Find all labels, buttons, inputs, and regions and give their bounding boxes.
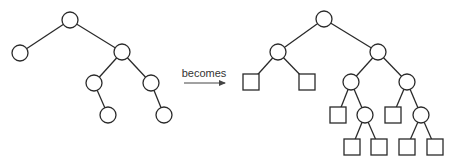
left-tree-edge	[20, 20, 70, 53]
left-tree-nodes	[12, 12, 172, 123]
right-tree-internal-node	[370, 44, 386, 60]
right-tree-external-node	[371, 139, 387, 155]
right-tree-external-node	[243, 74, 259, 90]
right-tree-edge	[324, 19, 378, 52]
left-tree-edges	[20, 20, 164, 115]
right-tree-external-node	[344, 139, 360, 155]
left-tree-internal-node	[62, 12, 78, 28]
right-tree-internal-node	[316, 11, 332, 27]
left-tree-internal-node	[156, 107, 172, 123]
right-tree-internal-node	[357, 107, 373, 123]
right-tree-internal-node	[413, 107, 429, 123]
left-tree-edge	[70, 20, 122, 52]
right-tree-internal-node	[343, 74, 359, 90]
becomes-label: becomes	[182, 67, 227, 79]
left-tree-internal-node	[143, 75, 159, 91]
right-tree-external-node	[427, 139, 443, 155]
left-tree-internal-node	[12, 45, 28, 61]
left-tree-internal-node	[114, 44, 130, 60]
right-tree-external-node	[299, 74, 315, 90]
right-tree-internal-node	[270, 44, 286, 60]
right-tree-internal-node	[399, 74, 415, 90]
right-tree-external-node	[399, 139, 415, 155]
tree-diagram: becomes	[0, 0, 456, 163]
right-tree-external-node	[330, 107, 346, 123]
left-tree-internal-node	[100, 107, 116, 123]
right-tree-external-node	[385, 107, 401, 123]
left-tree-internal-node	[86, 75, 102, 91]
